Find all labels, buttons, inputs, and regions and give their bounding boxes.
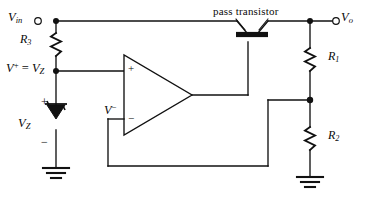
opamp-inverting-sign: −	[128, 113, 134, 124]
label-zener-voltage: VZ	[18, 117, 30, 131]
terminal-circle-vin	[35, 18, 42, 25]
label-v-minus: V−	[104, 103, 117, 116]
label-pass-transistor: pass transistor	[213, 6, 279, 17]
leader-line-right	[259, 19, 268, 30]
leader-line-left	[236, 19, 245, 30]
circuit-schematic-svg	[0, 0, 365, 200]
label-resistor-r3: R3	[20, 33, 31, 47]
resistor-r3-body	[51, 33, 61, 56]
junction-dot-output	[307, 18, 313, 24]
label-resistor-r2: R2	[328, 129, 339, 143]
zener-minus-sign: −	[41, 136, 48, 148]
junction-dot-vplus	[53, 68, 59, 74]
terminal-circle-vo	[333, 18, 340, 25]
label-resistor-r1: R1	[328, 50, 339, 64]
label-v-plus-node: V+ = VZ	[6, 61, 44, 76]
resistor-r1-body	[305, 48, 315, 71]
junction-dot-vin	[53, 18, 59, 24]
circuit-diagram: Vin Vo R3 R1 R2 V+ = VZ VZ V− pass trans…	[0, 0, 365, 200]
label-v-out: Vo	[341, 11, 353, 25]
wire-transistor-emitter	[258, 21, 268, 33]
junction-dot-divider	[307, 97, 313, 103]
zener-diode-triangle	[47, 105, 65, 119]
zener-plus-sign: +	[41, 96, 48, 108]
label-v-in: Vin	[8, 11, 22, 25]
resistor-r2-body	[305, 127, 315, 150]
opamp-noninverting-sign: +	[128, 63, 134, 74]
